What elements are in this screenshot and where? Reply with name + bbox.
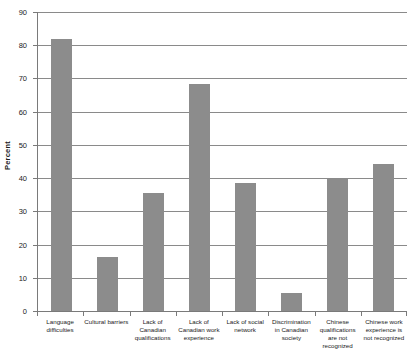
y-axis-tick-label: 80 — [19, 42, 27, 50]
x-axis-tick-label: Chinese qualifications are not recognize… — [315, 318, 361, 358]
bar-slot — [269, 12, 315, 311]
bar-slot — [223, 12, 269, 311]
bar-slot — [38, 12, 84, 311]
x-axis-tick-label: Lack of Canadian work experience — [176, 318, 222, 358]
y-axis-tick-label: 10 — [19, 275, 27, 283]
y-axis-tick-label: 20 — [19, 242, 27, 250]
bar-slot — [84, 12, 130, 311]
x-axis-tick-label: Chinese work experience is not recognize… — [361, 318, 407, 358]
bar-chart: Percent 0102030405060708090 Language dif… — [0, 0, 414, 363]
bar — [373, 164, 394, 311]
x-axis-tick — [315, 312, 316, 316]
x-axis-tick-label: Lack of social network — [222, 318, 268, 358]
x-axis-tick-cell — [83, 312, 129, 316]
y-axis-tick-label: 30 — [19, 209, 27, 217]
bar-slot — [176, 12, 222, 311]
plot-area: 0102030405060708090 — [37, 12, 407, 312]
bars-layer — [38, 12, 407, 311]
bar-slot — [361, 12, 407, 311]
y-axis-tick-label: 50 — [19, 142, 27, 150]
bar — [51, 39, 72, 311]
x-axis-tick-label: Lack of Canadian qualifications — [130, 318, 176, 358]
x-axis-tick-cell — [130, 312, 176, 316]
bar-slot — [315, 12, 361, 311]
x-axis-tick-cell — [268, 312, 314, 316]
x-axis-tick-cell — [176, 312, 222, 316]
y-axis-tick-label: 70 — [19, 76, 27, 84]
x-axis-tick — [37, 312, 38, 316]
bar-slot — [130, 12, 176, 311]
x-axis-tick — [176, 312, 177, 316]
bar — [327, 179, 348, 311]
y-axis-tick-label: 60 — [19, 109, 27, 117]
y-axis-title-label: Percent — [3, 141, 12, 170]
y-axis-tick-label: 90 — [19, 9, 27, 17]
bar — [97, 257, 118, 311]
x-axis-tick — [222, 312, 223, 316]
x-axis-tick-label: Cultural barriers — [83, 318, 129, 358]
x-axis-tick-cell — [222, 312, 268, 316]
x-axis-tick-cell — [37, 312, 83, 316]
bar — [235, 183, 256, 311]
x-axis-tick — [83, 312, 84, 316]
x-axis-tick — [130, 312, 131, 316]
y-axis-title: Percent — [0, 0, 14, 310]
y-axis-tick-label: 40 — [19, 175, 27, 183]
x-axis-tick-cell — [315, 312, 361, 316]
x-axis-tick-label: Language difficulties — [37, 318, 83, 358]
x-axis-tick-label: Discrimination in Canadian society — [268, 318, 314, 358]
bar — [143, 193, 164, 311]
x-axis-tick-cell — [361, 312, 407, 316]
x-axis-labels: Language difficultiesCultural barriersLa… — [37, 318, 407, 358]
x-axis-tick-end — [406, 312, 407, 316]
x-axis-tick — [361, 312, 362, 316]
x-axis-ticks — [37, 312, 407, 316]
bar — [281, 293, 302, 311]
bar — [189, 84, 210, 311]
y-axis-tick-label: 0 — [23, 308, 27, 316]
x-axis-tick — [268, 312, 269, 316]
